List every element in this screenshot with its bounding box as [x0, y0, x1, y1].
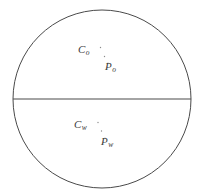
label-subscript-p-water: w	[108, 140, 113, 149]
label-pressure-oil: Po	[105, 61, 115, 72]
figure-container: Co Po Cw Pw	[0, 0, 203, 195]
marker-dot-mid-oil	[104, 56, 105, 57]
label-subscript-c-oil: o	[86, 48, 90, 57]
marker-dot-mid-water	[101, 130, 102, 131]
label-base-c-water: C	[74, 118, 81, 130]
label-subscript-c-water: w	[82, 123, 87, 132]
marker-dot-c-oil	[100, 47, 101, 48]
label-base-p-water: P	[101, 135, 108, 147]
label-base-p-oil: P	[105, 60, 112, 72]
label-pressure-water: Pw	[101, 136, 113, 147]
label-concentration-oil: Co	[78, 44, 89, 55]
label-concentration-water: Cw	[74, 119, 86, 130]
label-base-c-oil: C	[78, 43, 85, 55]
circle-diagram-canvas	[0, 0, 203, 195]
label-subscript-p-oil: o	[112, 65, 116, 74]
marker-dot-c-water	[97, 122, 98, 123]
